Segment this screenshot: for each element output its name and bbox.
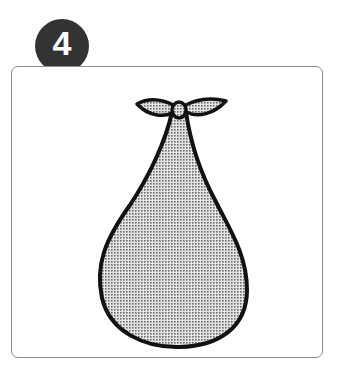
tied-cloth-bundle-icon xyxy=(0,0,339,371)
